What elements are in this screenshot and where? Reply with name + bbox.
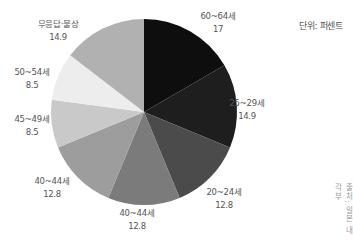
slice-label-no-response: 무응답·불상 14.9 xyxy=(38,18,79,44)
slice-label-45-49: 45~49세 8.5 xyxy=(15,113,50,139)
slice-category: 20~24세 xyxy=(207,186,242,199)
slice-category: 50~54세 xyxy=(15,66,50,79)
slice-label-50-54: 50~54세 8.5 xyxy=(15,66,50,92)
slice-value: 17 xyxy=(201,23,236,36)
slice-label-60-64: 60~64세 17 xyxy=(201,10,236,36)
slice-value: 8.5 xyxy=(15,79,50,92)
slice-category: 25~29세 xyxy=(230,97,265,110)
slice-label-25-29: 25~29세 14.9 xyxy=(230,97,265,123)
slice-value: 8.5 xyxy=(15,126,50,139)
slice-label-20-24: 20~24세 12.8 xyxy=(207,186,242,212)
slice-value: 12.8 xyxy=(207,199,242,212)
slice-category: 무응답·불상 xyxy=(38,18,79,31)
slice-category: 45~49세 xyxy=(15,113,50,126)
source-note: 출처: 일본 내각부 xyxy=(331,183,353,240)
slice-value: 12.8 xyxy=(35,188,70,201)
slice-label-40-44-a: 40~44세 12.8 xyxy=(120,207,155,233)
slice-label-40-44-b: 40~44세 12.8 xyxy=(35,175,70,201)
slice-value: 14.9 xyxy=(38,31,79,44)
slice-category: 40~44세 xyxy=(120,207,155,220)
slice-value: 14.9 xyxy=(230,110,265,123)
slice-category: 40~44세 xyxy=(35,175,70,188)
slice-category: 60~64세 xyxy=(201,10,236,23)
unit-label: 단위: 퍼센트 xyxy=(299,19,343,32)
slice-value: 12.8 xyxy=(120,220,155,233)
